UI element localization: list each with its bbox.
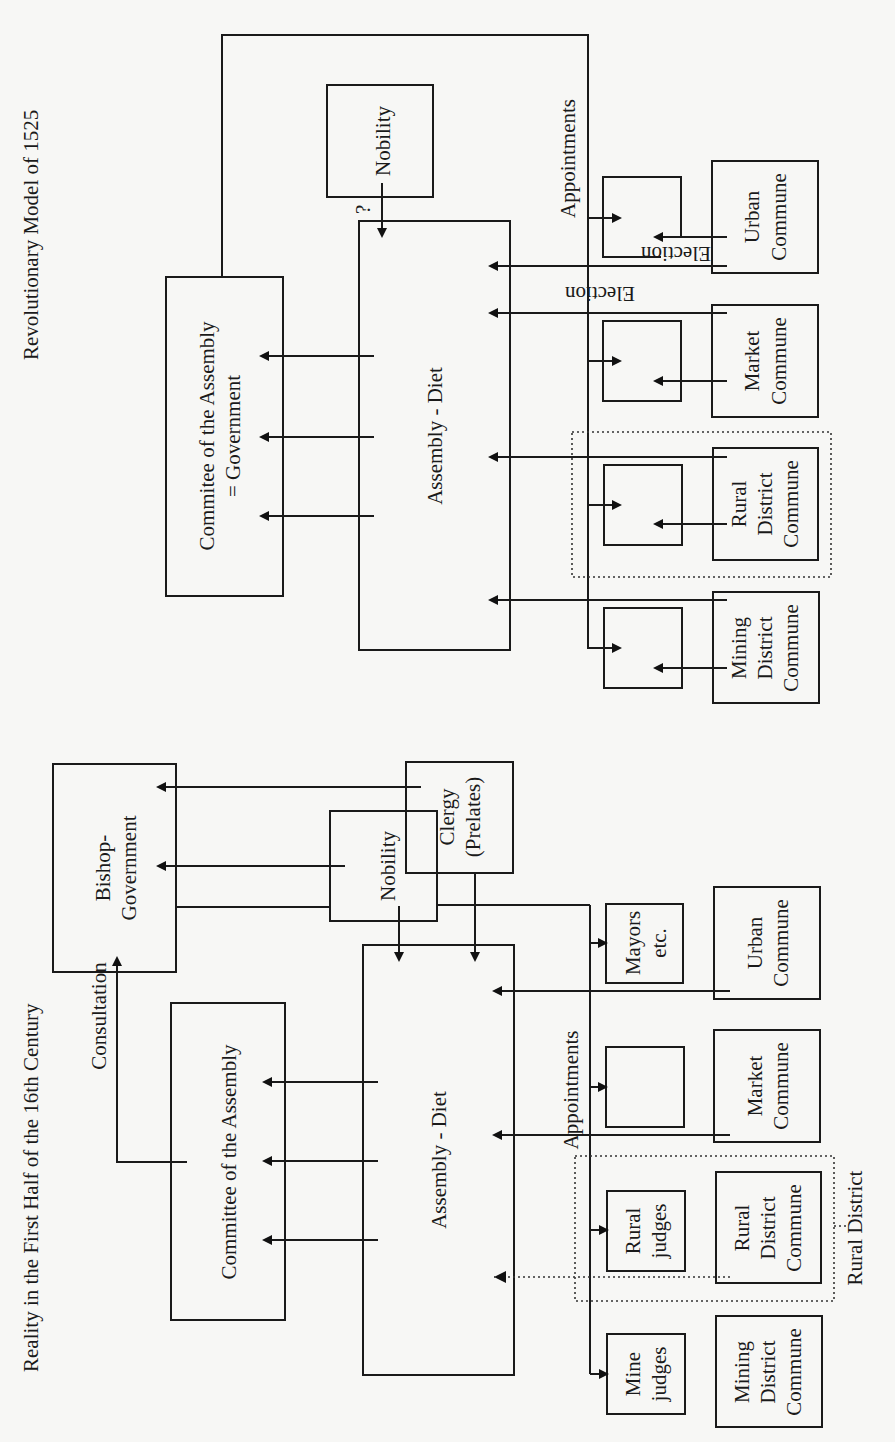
- commune-label: Commune: [782, 1184, 806, 1272]
- commune-label: Market: [740, 331, 764, 392]
- commune-label: Urban: [740, 190, 764, 243]
- commune-label: Market: [743, 1056, 767, 1117]
- commune-label: Commune: [779, 460, 803, 548]
- commune-label: Commune: [782, 1328, 806, 1416]
- assembly-label: Assembly - Diet: [423, 367, 447, 505]
- market-commune-box: [712, 305, 818, 417]
- appointments-label: Appointments: [556, 99, 580, 218]
- commune-label: Mining: [727, 617, 751, 679]
- commune-label: Rural: [730, 1205, 754, 1252]
- official-label: judges: [647, 1347, 671, 1403]
- commune-label: Commune: [769, 899, 793, 987]
- commune-label: Mining: [730, 1341, 754, 1403]
- mine-judges-box: [607, 1334, 685, 1414]
- official-label: judges: [647, 1204, 671, 1260]
- official-label: etc.: [647, 928, 671, 958]
- reality-model-title: Reality in the First Half of the 16th Ce…: [19, 1003, 43, 1372]
- nobility-label: Nobility: [371, 106, 395, 177]
- commune-label: District: [756, 1196, 780, 1259]
- rural-judges-box: [607, 1191, 685, 1271]
- commune-label: Commune: [767, 317, 791, 405]
- consultation-arrow: [117, 958, 187, 1162]
- commune-label: Urban: [743, 916, 767, 969]
- appointments-label: Appointments: [559, 1031, 583, 1150]
- election-label-outer: Election: [565, 282, 635, 306]
- assembly-label: Assembly - Diet: [427, 1091, 451, 1229]
- commune-label: District: [753, 616, 777, 679]
- committee-label: Committee of the Assembly: [217, 1044, 241, 1280]
- committee-label: Commitee of the Assembly: [195, 321, 219, 551]
- urban-commune-box: [712, 161, 818, 273]
- official-label: Mayors: [621, 911, 645, 975]
- market-commune-box: [714, 1030, 820, 1142]
- appointments-connector: [222, 35, 588, 460]
- revolutionary-model: Revolutionary Model of 1525 Commitee of …: [19, 35, 831, 703]
- commune-label: Commune: [769, 1042, 793, 1130]
- election-label-inner: Election: [641, 242, 711, 266]
- arrowhead: [494, 1271, 506, 1283]
- clergy-label: (Prelates): [461, 777, 485, 857]
- official-label: Rural: [621, 1208, 645, 1255]
- official-label: Mine: [621, 1352, 645, 1396]
- bishop-government-label: Bishop-: [91, 835, 115, 902]
- bishop-government-label: Government: [117, 815, 141, 920]
- market-official-box: [606, 1047, 684, 1127]
- question-mark: ?: [351, 205, 375, 214]
- commune-label: Commune: [779, 604, 803, 692]
- commune-label: Rural: [727, 481, 751, 528]
- rural-district-label: Rural District: [843, 1170, 867, 1285]
- reality-model: Reality in the First Half of the 16th Ce…: [19, 762, 867, 1427]
- nobility-label: Nobility: [376, 831, 400, 902]
- commune-label: District: [756, 1340, 780, 1403]
- urban-commune-box: [714, 887, 820, 999]
- committee-label-2: = Government: [221, 375, 245, 497]
- consultation-label: Consultation: [87, 962, 111, 1070]
- commune-label: Commune: [767, 173, 791, 261]
- diagram-page: Revolutionary Model of 1525 Commitee of …: [0, 0, 895, 1442]
- clergy-box: [406, 762, 513, 873]
- organization-diagram: Revolutionary Model of 1525 Commitee of …: [0, 0, 895, 1442]
- commune-label: District: [753, 472, 777, 535]
- clergy-label: Clergy: [435, 788, 459, 845]
- revolutionary-model-title: Revolutionary Model of 1525: [19, 110, 43, 360]
